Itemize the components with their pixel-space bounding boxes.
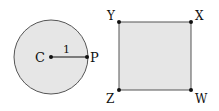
square <box>119 22 191 90</box>
vertex-w <box>189 88 193 92</box>
center-point <box>49 55 53 59</box>
center-label: C <box>35 50 45 65</box>
geometry-diagram: C P 1 Y X Z W <box>0 0 219 111</box>
vertex-z-label: Z <box>106 92 114 106</box>
vertex-y <box>117 20 121 24</box>
vertex-w-label: W <box>195 92 208 106</box>
vertex-x-label: X <box>195 9 204 23</box>
vertex-y-label: Y <box>106 9 116 23</box>
point-p-label: P <box>90 50 99 65</box>
point-p <box>85 55 89 59</box>
radius-label: 1 <box>63 43 70 56</box>
square-figure: Y X Z W <box>106 9 208 106</box>
vertex-z <box>117 88 121 92</box>
circle-figure: C P 1 <box>14 20 99 94</box>
vertex-x <box>189 20 193 24</box>
